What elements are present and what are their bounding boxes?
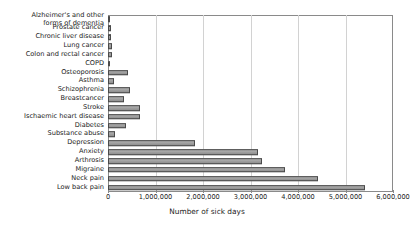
bar — [108, 96, 124, 102]
bar-row: Colon and rectal cancer — [0, 50, 414, 59]
category-label: Anxiety — [0, 148, 104, 155]
bar — [108, 141, 195, 147]
category-label: Neck pain — [0, 175, 104, 182]
bar-row: Anxiety — [0, 148, 414, 157]
category-label: COPD — [0, 60, 104, 67]
bar — [108, 87, 130, 93]
bar — [108, 132, 115, 138]
x-tick-label: 5,000,000 — [329, 193, 363, 201]
x-tick-mark — [108, 190, 109, 193]
x-axis-ticks: 01,000,0002,000,0003,000,0004,000,0005,0… — [0, 193, 414, 205]
bar — [108, 43, 112, 49]
bar — [108, 167, 285, 173]
category-label: Stroke — [0, 104, 104, 111]
category-label: Ischaemic heart disease — [0, 113, 104, 120]
bar — [108, 17, 110, 23]
x-tick-mark — [298, 190, 299, 193]
category-label: Osteoporosis — [0, 69, 104, 76]
bar-row: Schizophrenia — [0, 86, 414, 95]
category-label: Migraine — [0, 166, 104, 173]
x-tick-label: 6,000,000 — [376, 193, 410, 201]
bar — [108, 114, 140, 120]
bar-row: Low back pain — [0, 183, 414, 192]
x-tick-label: 1,000,000 — [139, 193, 173, 201]
category-label: Depression — [0, 140, 104, 147]
category-label: Colon and rectal cancer — [0, 51, 104, 58]
bar — [108, 149, 258, 155]
bar-row: Neck pain — [0, 174, 414, 183]
category-label: Breastcancer — [0, 95, 104, 102]
bar — [108, 52, 112, 58]
bar-row: Alzheimer's and other forms of dementia — [0, 15, 414, 24]
x-tick-mark — [393, 190, 394, 193]
sick-days-bar-chart: Alzheimer's and other forms of dementiaP… — [0, 0, 414, 227]
category-label: Low back pain — [0, 184, 104, 191]
category-label: Substance abuse — [0, 131, 104, 138]
bar-row: Migraine — [0, 165, 414, 174]
bar-row: Diabetes — [0, 121, 414, 130]
bar-row: COPD — [0, 59, 414, 68]
category-label: Schizophrenia — [0, 87, 104, 94]
bar-row: Lung cancer — [0, 42, 414, 51]
x-tick-mark — [251, 190, 252, 193]
bar — [108, 70, 128, 76]
bar-row: Stroke — [0, 104, 414, 113]
category-label: Chronic liver disease — [0, 33, 104, 40]
bar — [108, 123, 126, 129]
x-tick-label: 3,000,000 — [234, 193, 268, 201]
bar-row: Breastcancer — [0, 95, 414, 104]
bar-row: Osteoporosis — [0, 68, 414, 77]
bar-row: Substance abuse — [0, 130, 414, 139]
bar — [108, 34, 111, 40]
x-axis-title: Number of sick days — [0, 207, 414, 216]
bar — [108, 61, 110, 67]
bar — [108, 25, 111, 31]
bar-row: Ischaemic heart disease — [0, 112, 414, 121]
bar — [108, 79, 114, 85]
bar — [108, 185, 365, 191]
category-label: Lung cancer — [0, 42, 104, 49]
category-label: Arthrosis — [0, 157, 104, 164]
x-tick-label: 0 — [106, 193, 110, 201]
bar — [108, 158, 262, 164]
category-label: Diabetes — [0, 122, 104, 129]
x-tick-mark — [203, 190, 204, 193]
category-label: Asthma — [0, 78, 104, 85]
bar-row: Chronic liver disease — [0, 33, 414, 42]
bar-row: Asthma — [0, 77, 414, 86]
x-tick-mark — [346, 190, 347, 193]
bar-row: Arthrosis — [0, 157, 414, 166]
bar — [108, 176, 318, 182]
category-label: Prostate cancer — [0, 25, 104, 32]
bar-rows: Alzheimer's and other forms of dementiaP… — [0, 15, 414, 192]
x-tick-mark — [156, 190, 157, 193]
x-tick-label: 4,000,000 — [281, 193, 315, 201]
x-tick-label: 2,000,000 — [186, 193, 220, 201]
bar-row: Depression — [0, 139, 414, 148]
bar-row: Prostate cancer — [0, 24, 414, 33]
bar — [108, 105, 140, 111]
